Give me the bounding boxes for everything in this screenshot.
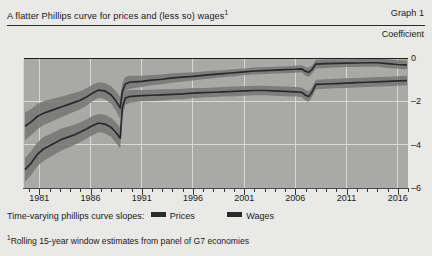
x-tick-minor <box>152 189 153 192</box>
x-tick-label: 2016 <box>378 193 418 204</box>
legend-label-wages: Wages <box>246 211 274 221</box>
graph-number: Graph 1 <box>391 7 424 19</box>
x-tick-label: 1991 <box>122 193 162 204</box>
x-tick-minor <box>203 189 204 192</box>
x-tick-label: 1981 <box>19 193 59 204</box>
x-tick-minor <box>101 189 102 192</box>
x-tick-minor <box>50 189 51 192</box>
x-tick-label: 2001 <box>224 193 264 204</box>
x-tick-minor <box>316 189 317 192</box>
footnote-text: Rolling 15-year window estimates from pa… <box>11 236 249 246</box>
x-tick-minor <box>80 189 81 192</box>
x-tick-minor <box>275 189 276 192</box>
y-axis-line <box>23 58 24 189</box>
x-tick-minor <box>357 189 358 192</box>
header-divider <box>7 25 425 26</box>
x-tick-minor <box>254 189 255 192</box>
x-tick-minor <box>326 189 327 192</box>
x-tick-minor <box>234 189 235 192</box>
x-tick-minor <box>285 189 286 192</box>
x-tick-minor <box>111 189 112 192</box>
y-tick-label: –2 <box>411 96 431 106</box>
x-tick-label: 2011 <box>327 193 367 204</box>
legend-swatch-prices <box>151 212 166 217</box>
x-tick-minor <box>70 189 71 192</box>
x-tick-minor <box>336 189 337 192</box>
figure: A flatter Phillips curve for prices and … <box>0 0 432 256</box>
y-tick-label: –4 <box>411 140 431 150</box>
x-tick-minor <box>224 189 225 192</box>
legend: Time-varying phillips curve slopes: Pric… <box>7 210 304 222</box>
legend-label-prices: Prices <box>170 211 195 221</box>
page-title: A flatter Phillips curve for prices and … <box>7 7 228 22</box>
y-tick-label: 0 <box>411 53 431 63</box>
x-tick-minor <box>172 189 173 192</box>
footnote: 1Rolling 15-year window estimates from p… <box>7 232 249 247</box>
x-tick-minor <box>377 189 378 192</box>
legend-swatch-wages <box>227 212 242 217</box>
x-tick-minor <box>60 189 61 192</box>
x-tick-label: 2006 <box>275 193 315 204</box>
title-footnote-marker: 1 <box>224 9 228 16</box>
x-tick-minor <box>367 189 368 192</box>
x-tick-label: 1996 <box>173 193 213 204</box>
x-tick-minor <box>306 189 307 192</box>
x-tick-label: 1986 <box>71 193 111 204</box>
x-tick-minor <box>29 189 30 192</box>
x-tick-minor <box>265 189 266 192</box>
page-title-text: A flatter Phillips curve for prices and … <box>7 11 224 21</box>
x-tick-minor <box>132 189 133 192</box>
legend-entry-prices: Prices <box>151 211 195 221</box>
x-tick-minor <box>121 189 122 192</box>
y-axis-unit-label: Coefficient <box>382 28 424 40</box>
x-tick-minor <box>162 189 163 192</box>
x-tick-minor <box>183 189 184 192</box>
x-tick-minor <box>388 189 389 192</box>
y-tick-label: –6 <box>411 183 431 193</box>
plot-area <box>24 58 408 188</box>
legend-title: Time-varying phillips curve slopes: <box>7 211 144 221</box>
legend-entry-wages: Wages <box>227 211 274 221</box>
chart-svg <box>24 58 408 188</box>
x-tick-minor <box>213 189 214 192</box>
x-tick-minor <box>408 189 409 192</box>
